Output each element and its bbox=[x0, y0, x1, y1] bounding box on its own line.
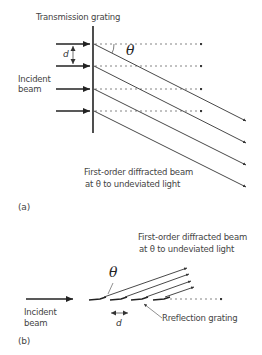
theta-arc-a bbox=[112, 44, 114, 53]
diffraction-grating-diagram: Transmission grating d Incident beam θ F… bbox=[0, 0, 262, 355]
diffracted-2 bbox=[94, 66, 246, 143]
diffracted-1 bbox=[94, 44, 246, 121]
reflection-grating-label: Rreflection grating bbox=[162, 313, 237, 323]
theta-label-b: θ bbox=[109, 264, 117, 280]
spacing-d-label-b: d bbox=[116, 318, 122, 328]
spacing-d-label-a: d bbox=[63, 49, 69, 59]
incident-beam-label-b-2: beam bbox=[24, 318, 47, 328]
panel-a-drawing bbox=[56, 26, 246, 187]
diffracted-b-3 bbox=[146, 281, 191, 297]
panel-label-b: (b) bbox=[18, 336, 30, 346]
incident-beam-label-a-1: Incident bbox=[18, 74, 51, 84]
facet-1 bbox=[89, 297, 106, 300]
diffracted-beam-label-a-1: First-order diffracted beam bbox=[84, 167, 193, 177]
facet-2 bbox=[110, 297, 127, 300]
panel-label-a: (a) bbox=[18, 202, 30, 212]
facet-4 bbox=[153, 297, 170, 300]
diffracted-beam-label-a-2: at θ to undeviated light bbox=[85, 179, 180, 189]
incident-beam-label-a-2: beam bbox=[18, 84, 41, 94]
diffracted-beam-label-b-1: First-order diffracted beam bbox=[138, 232, 247, 242]
facet-3 bbox=[131, 297, 148, 300]
theta-pointer-b bbox=[108, 283, 113, 294]
transmission-grating-title: Transmission grating bbox=[36, 12, 120, 22]
incident-beam-label-b-1: Incident bbox=[24, 307, 57, 317]
theta-label-a: θ bbox=[126, 42, 134, 58]
diffracted-beam-label-b-2: at θ to undeviated light bbox=[139, 244, 234, 254]
diffracted-3 bbox=[94, 89, 246, 165]
grating-pointer-b bbox=[144, 304, 162, 318]
